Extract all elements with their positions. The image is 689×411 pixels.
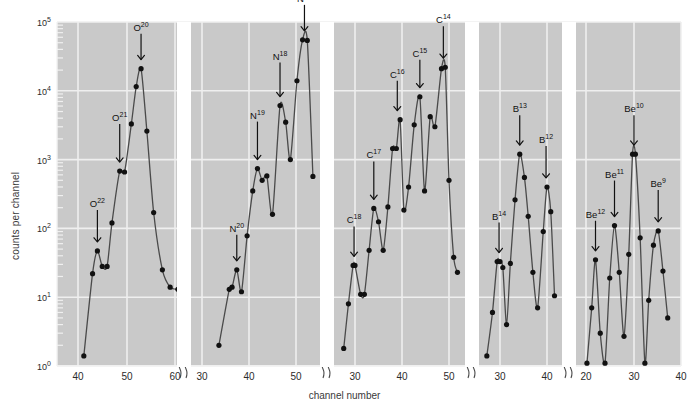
peak-label-o-22: O22 — [77, 197, 117, 209]
peak-label-n-19: N19 — [237, 109, 277, 121]
y-tick-label-10: 101 — [5, 291, 51, 303]
peak-label-be-11: Be11 — [595, 168, 635, 180]
x-tick-label-nitrogen-40: 40 — [234, 371, 264, 382]
x-tick-label-carbon-50: 50 — [434, 371, 464, 382]
figure-container: counts per channel channel number 100101… — [0, 0, 689, 411]
x-tick-label-oxygen-50: 50 — [112, 371, 142, 382]
y-axis-label: counts per channel — [10, 130, 21, 260]
peak-label-c-17: C17 — [354, 148, 394, 160]
peak-label-be-10: Be10 — [614, 102, 654, 114]
peak-label-c-15: C15 — [400, 47, 440, 59]
y-tick-label-100000: 105 — [5, 16, 51, 28]
peak-label-be-9: Be9 — [638, 177, 678, 189]
peak-label-be-12: Be12 — [576, 208, 616, 220]
peak-label-b-14: B14 — [479, 210, 519, 222]
x-tick-label-oxygen-60: 60 — [160, 371, 190, 382]
peak-label-b-13: B13 — [500, 102, 540, 114]
peak-label-o-20: O20 — [121, 21, 161, 33]
x-tick-label-nitrogen-50: 50 — [281, 371, 311, 382]
peak-label-o-21: O21 — [100, 111, 140, 123]
x-tick-label-beryllium-40: 40 — [666, 371, 689, 382]
peak-label-n-20: N20 — [217, 222, 257, 234]
peak-label-c-14: C14 — [423, 13, 463, 25]
x-tick-label-beryllium-20: 20 — [571, 371, 601, 382]
x-tick-label-boron-30: 30 — [485, 371, 515, 382]
peak-label-n-18: N18 — [260, 50, 300, 62]
x-tick-label-carbon-30: 30 — [340, 371, 370, 382]
peak-label-c-16: C16 — [377, 68, 417, 80]
peak-label-c-18: C18 — [334, 213, 374, 225]
x-tick-label-boron-40: 40 — [532, 371, 562, 382]
x-tick-label-beryllium-30: 30 — [619, 371, 649, 382]
y-tick-label-1: 100 — [5, 360, 51, 372]
x-axis-label: channel number — [0, 390, 689, 401]
x-tick-label-oxygen-40: 40 — [63, 371, 93, 382]
x-tick-label-nitrogen-30: 30 — [187, 371, 217, 382]
x-tick-label-carbon-40: 40 — [387, 371, 417, 382]
y-tick-label-100: 102 — [5, 222, 51, 234]
y-axis-label-wrap: counts per channel — [10, 260, 11, 261]
y-tick-label-10000: 104 — [5, 85, 51, 97]
y-tick-label-1000: 103 — [5, 154, 51, 166]
peak-label-b-12: B12 — [526, 133, 566, 145]
peak-label-n-17: N17 — [284, 0, 324, 4]
